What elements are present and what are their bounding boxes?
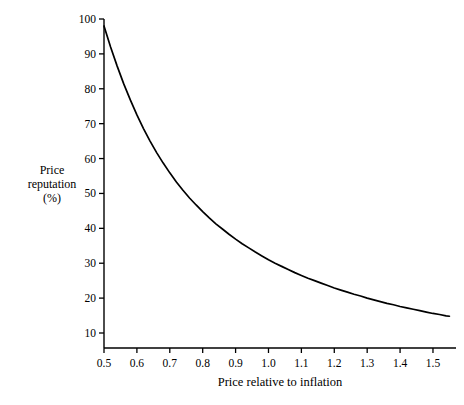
y-axis-title-line-3: (%)	[8, 191, 96, 205]
x-axis-title: Price relative to inflation	[104, 375, 456, 390]
y-tick-label: 10	[62, 327, 96, 339]
y-tick-label: 90	[62, 48, 96, 60]
x-tick-label: 1.1	[294, 357, 308, 369]
x-tick-label: 1.0	[261, 357, 275, 369]
y-tick-label: 40	[62, 222, 96, 234]
y-tick-label: 20	[62, 292, 96, 304]
x-tick-label: 0.7	[163, 357, 177, 369]
y-tick-label: 30	[62, 257, 96, 269]
y-tick-marks	[99, 19, 104, 333]
x-tick-label: 1.4	[393, 357, 407, 369]
y-axis-title-line-1: Price	[8, 163, 96, 177]
y-tick-label: 70	[62, 118, 96, 130]
x-tick-label: 0.6	[130, 357, 144, 369]
y-axis-title: Price reputation (%)	[8, 163, 96, 205]
x-tick-label: 0.8	[196, 357, 210, 369]
y-tick-label: 100	[62, 13, 96, 25]
x-tick-label: 1.5	[426, 357, 440, 369]
y-tick-label: 80	[62, 83, 96, 95]
axes	[104, 19, 456, 348]
x-tick-marks	[104, 348, 433, 353]
x-tick-label: 0.9	[228, 357, 242, 369]
x-tick-label: 1.2	[327, 357, 341, 369]
price-reputation-chart: 102030405060708090100 0.50.60.70.80.91.0…	[0, 0, 464, 405]
x-tick-label: 0.5	[97, 357, 111, 369]
x-tick-label: 1.3	[360, 357, 374, 369]
data-curve-price-reputation	[104, 26, 449, 316]
y-axis-title-line-2: reputation	[8, 177, 96, 191]
